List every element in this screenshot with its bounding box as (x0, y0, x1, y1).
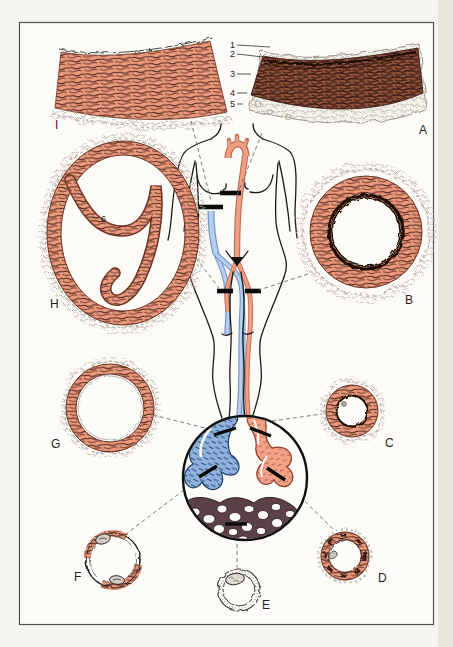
page-edge-shadow (438, 0, 453, 647)
label-section-c: C (385, 436, 394, 450)
vessel-section-b-muscular-artery (300, 166, 432, 298)
label-layer-2: 2 (230, 49, 235, 59)
label-layer-4: 4 (230, 88, 235, 98)
vessel-section-f-venule (86, 532, 140, 587)
label-section-f: F (74, 570, 81, 584)
scanned-atlas-page: 1 2 3 4 5 (0, 0, 453, 647)
vessel-section-e-capillary (218, 569, 260, 611)
label-layer-3: 3 (230, 69, 235, 79)
vessel-histology-plate: 1 2 3 4 5 (0, 0, 453, 647)
vessel-section-c-small-artery (321, 380, 383, 442)
label-section-b: B (405, 293, 413, 307)
label-section-i: I (55, 118, 58, 132)
label-section-e: E (262, 598, 270, 612)
label-layer-5: 5 (230, 99, 235, 109)
label-section-d: D (378, 571, 387, 585)
label-section-g: G (51, 437, 60, 451)
label-layer-6: 6 (101, 214, 106, 224)
label-section-h: H (50, 297, 59, 311)
label-section-a: A (419, 123, 427, 137)
endothelial-nucleus (342, 402, 347, 407)
